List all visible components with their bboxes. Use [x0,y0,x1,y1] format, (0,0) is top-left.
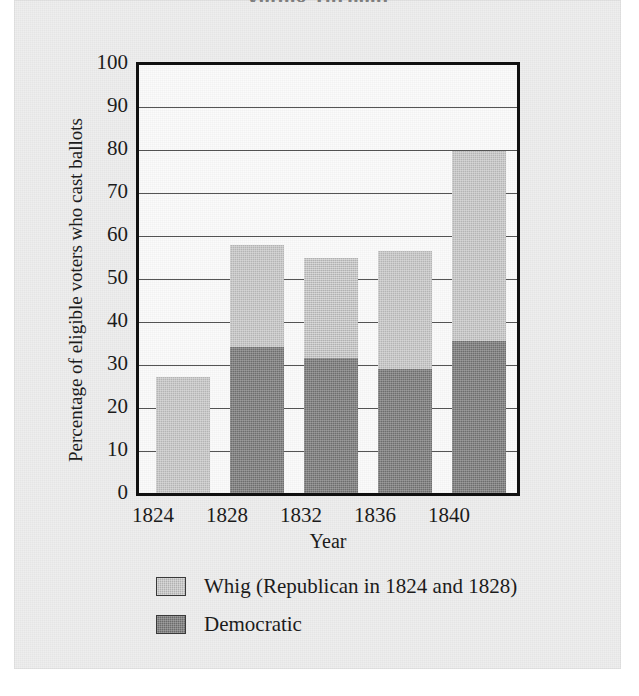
x-tick-1828: 1828 [187,503,267,528]
legend-label-democratic: Democratic [204,612,302,637]
legend-item-democratic[interactable]: Democratic [156,605,586,643]
y-tick-50: 50 [82,267,128,288]
legend: Whig (Republican in 1824 and 1828) Democ… [156,567,586,643]
plot-area [136,62,520,496]
figure-page: Voting Turnout 100 90 80 70 60 50 40 30 … [0,0,639,696]
bar-segment-democratic-1832[interactable] [304,358,358,493]
y-tick-30: 30 [82,353,128,374]
x-tick-1840: 1840 [409,503,489,528]
bar-segment-whig-1824[interactable] [156,377,210,493]
y-tick-80: 80 [82,138,128,159]
scanned-page-panel: Voting Turnout 100 90 80 70 60 50 40 30 … [14,0,621,669]
legend-label-whig: Whig (Republican in 1824 and 1828) [204,574,517,599]
x-tick-1832: 1832 [261,503,341,528]
y-axis-label: Percentage of eligible voters who cast b… [65,90,87,490]
legend-item-whig[interactable]: Whig (Republican in 1824 and 1828) [156,567,586,605]
y-tick-10: 10 [82,439,128,460]
y-tick-90: 90 [82,95,128,116]
y-tick-100: 100 [82,52,128,73]
x-axis-label: Year [136,530,520,553]
bar-segment-democratic-1840[interactable] [452,341,506,493]
bar-segment-whig-1840[interactable] [452,151,506,341]
bar-segment-democratic-1836[interactable] [378,369,432,493]
gridline-90 [139,107,517,108]
bar-segment-whig-1828[interactable] [230,245,284,348]
x-tick-1824: 1824 [113,503,193,528]
y-tick-60: 60 [82,224,128,245]
y-tick-70: 70 [82,181,128,202]
bar-segment-whig-1836[interactable] [378,251,432,369]
y-tick-0: 0 [82,482,128,503]
bar-segment-whig-1832[interactable] [304,258,358,359]
legend-swatch-whig [156,577,186,596]
legend-swatch-democratic [156,615,186,634]
bar-segment-democratic-1828[interactable] [230,347,284,493]
x-tick-1836: 1836 [335,503,415,528]
y-tick-40: 40 [82,310,128,331]
y-tick-20: 20 [82,396,128,417]
